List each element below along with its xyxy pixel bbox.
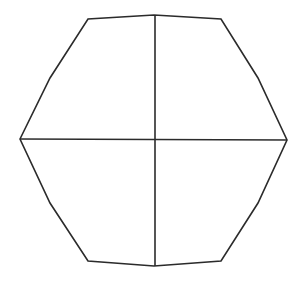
horizontal-axis-line (20, 139, 287, 140)
diagram-canvas (0, 0, 307, 291)
